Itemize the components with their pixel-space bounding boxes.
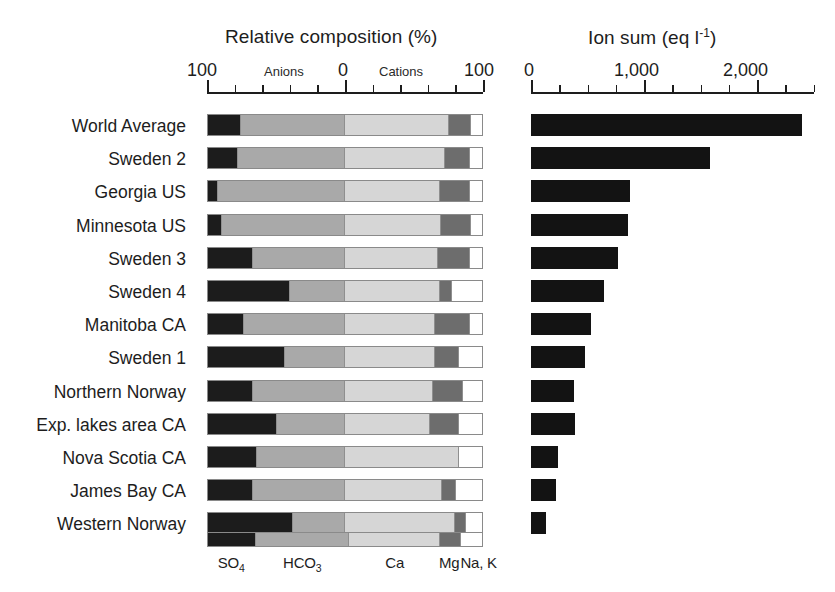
stacked-bar-row bbox=[207, 147, 483, 169]
category-label: Sweden 3 bbox=[0, 251, 186, 269]
legend-label-nak: Na, K bbox=[460, 554, 497, 571]
legend-label-hco3: HCO3 bbox=[283, 554, 321, 574]
bar-segment-ca bbox=[345, 480, 442, 500]
stacked-bar-row bbox=[207, 413, 483, 435]
bar-segment-ca bbox=[345, 115, 449, 135]
axis-tick-minor bbox=[701, 85, 703, 92]
bar-segment-nak bbox=[470, 314, 482, 334]
legend-swatch-ca bbox=[349, 533, 439, 546]
bar-segment-so4 bbox=[208, 480, 253, 500]
bar-segment-nak bbox=[471, 115, 482, 135]
bar-segment-mg bbox=[449, 115, 471, 135]
bar-segment-mg bbox=[435, 314, 469, 334]
bar-segment-hco3 bbox=[218, 181, 345, 201]
axis-tick-minor bbox=[235, 85, 237, 92]
bar-segment-ca bbox=[345, 347, 435, 367]
stacked-bar-row bbox=[207, 446, 483, 468]
bar-segment-mg bbox=[442, 480, 456, 500]
ion-sum-bar bbox=[531, 313, 591, 335]
left-axis-tick-zero: 0 bbox=[338, 60, 348, 81]
legend-label-ca: Ca bbox=[385, 554, 404, 571]
category-label: Sweden 4 bbox=[0, 284, 186, 302]
stacked-bar-row bbox=[207, 479, 483, 501]
axis-tick-minor bbox=[317, 85, 319, 92]
legend-swatch-hco3 bbox=[256, 533, 349, 546]
bar-segment-mg bbox=[441, 215, 471, 235]
bar-segment-nak bbox=[471, 215, 482, 235]
stacked-bar-row bbox=[207, 114, 483, 136]
axis-tick-major bbox=[483, 80, 485, 92]
stacked-bar-row bbox=[207, 280, 483, 302]
bar-segment-nak bbox=[459, 347, 482, 367]
bar-segment-hco3 bbox=[244, 314, 345, 334]
axis-tick-major bbox=[207, 80, 209, 92]
bar-segment-so4 bbox=[208, 215, 222, 235]
category-label: Western Norway bbox=[0, 516, 186, 534]
axis-tick-minor bbox=[455, 85, 457, 92]
bar-segment-nak bbox=[470, 181, 482, 201]
bar-segment-nak bbox=[452, 281, 482, 301]
stacked-bar-row bbox=[207, 313, 483, 335]
bar-segment-hco3 bbox=[257, 447, 345, 467]
bar-segment-hco3 bbox=[241, 115, 345, 135]
legend-label-subscript: 3 bbox=[316, 562, 322, 574]
legend-label-text: HCO bbox=[283, 554, 316, 571]
right-panel-title: Ion sum (eq l-1) bbox=[588, 26, 716, 49]
category-label: Manitoba CA bbox=[0, 317, 186, 335]
legend-swatch-bar bbox=[207, 532, 483, 547]
bar-segment-so4 bbox=[208, 513, 293, 533]
bar-segment-so4 bbox=[208, 381, 253, 401]
axis-tick-minor bbox=[616, 85, 618, 92]
category-label: James Bay CA bbox=[0, 483, 186, 501]
legend-label-text: Mg bbox=[439, 554, 459, 571]
bar-segment-ca bbox=[345, 447, 459, 467]
bar-segment-so4 bbox=[208, 447, 257, 467]
bar-segment-ca bbox=[345, 281, 440, 301]
bar-segment-hco3 bbox=[253, 381, 345, 401]
bar-segment-hco3 bbox=[222, 215, 345, 235]
stacked-bar-row bbox=[207, 380, 483, 402]
right-panel-title-tail: ) bbox=[710, 27, 716, 48]
ion-sum-bar bbox=[531, 114, 802, 136]
cations-label: Cations bbox=[379, 64, 423, 79]
ion-sum-bar bbox=[531, 247, 618, 269]
category-label: Nova Scotia CA bbox=[0, 450, 186, 468]
legend-label-mg: Mg bbox=[439, 554, 459, 571]
bar-segment-so4 bbox=[208, 347, 285, 367]
bar-segment-ca bbox=[345, 513, 455, 533]
axis-tick-minor bbox=[373, 85, 375, 92]
stacked-bar-row bbox=[207, 346, 483, 368]
legend-swatch-nak bbox=[461, 533, 482, 546]
ion-sum-bar bbox=[531, 346, 585, 368]
bar-segment-nak bbox=[459, 447, 482, 467]
bar-segment-nak bbox=[466, 513, 482, 533]
bar-segment-hco3 bbox=[285, 347, 345, 367]
axis-tick-minor bbox=[559, 85, 561, 92]
bar-segment-hco3 bbox=[253, 248, 345, 268]
bar-segment-nak bbox=[459, 414, 482, 434]
bar-segment-ca bbox=[345, 148, 445, 168]
category-label: World Average bbox=[0, 118, 186, 136]
bar-segment-so4 bbox=[208, 414, 277, 434]
axis-tick-minor bbox=[588, 85, 590, 92]
bar-segment-nak bbox=[470, 248, 482, 268]
ion-sum-bar bbox=[531, 280, 604, 302]
legend-label-subscript: 4 bbox=[239, 562, 245, 574]
legend-label-text: SO bbox=[218, 554, 239, 571]
axis-tick-minor bbox=[814, 85, 816, 92]
axis-tick-minor bbox=[290, 85, 292, 92]
axis-tick-minor bbox=[785, 85, 787, 92]
right-axis-tick-1000: 1,000 bbox=[614, 60, 659, 81]
bar-segment-nak bbox=[463, 381, 482, 401]
bar-segment-so4 bbox=[208, 181, 218, 201]
left-axis-tick-100-cations: 100 bbox=[464, 60, 494, 81]
bar-segment-so4 bbox=[208, 281, 290, 301]
axis-tick-major bbox=[345, 80, 347, 92]
axis-tick-minor bbox=[672, 85, 674, 92]
ion-sum-bar bbox=[531, 413, 575, 435]
category-label: Northern Norway bbox=[0, 384, 186, 402]
legend-label-text: Na, K bbox=[460, 554, 497, 571]
bar-segment-ca bbox=[345, 381, 433, 401]
ion-sum-bar bbox=[531, 446, 558, 468]
bar-segment-mg bbox=[433, 381, 463, 401]
